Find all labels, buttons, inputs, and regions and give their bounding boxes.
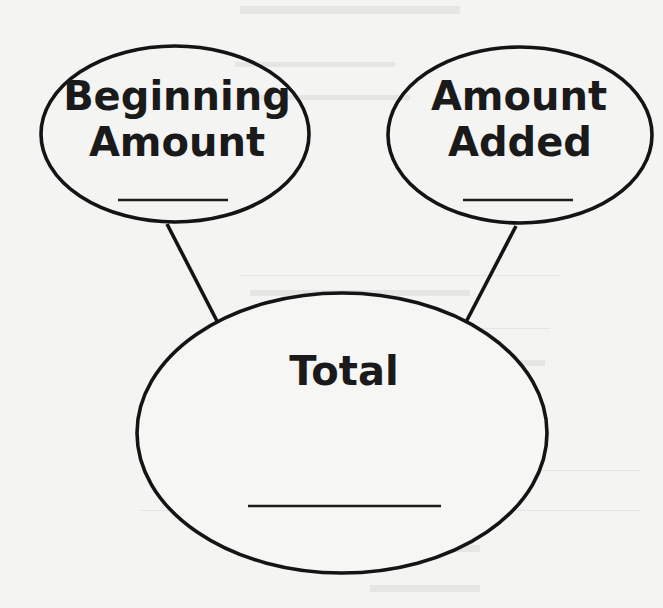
amount-added-label-line1: Amount xyxy=(431,73,607,119)
total-label: Total xyxy=(289,348,398,394)
worksheet-page: Beginning Amount Amount Added Total xyxy=(0,0,663,608)
node-total: Total xyxy=(137,293,547,573)
beginning-amount-label-line2: Amount xyxy=(89,119,265,165)
beginning-amount-label-line1: Beginning xyxy=(63,73,291,119)
amount-added-label-line2: Added xyxy=(448,119,592,165)
total-ellipse xyxy=(137,293,547,573)
number-bond-diagram: Beginning Amount Amount Added Total xyxy=(0,0,663,608)
